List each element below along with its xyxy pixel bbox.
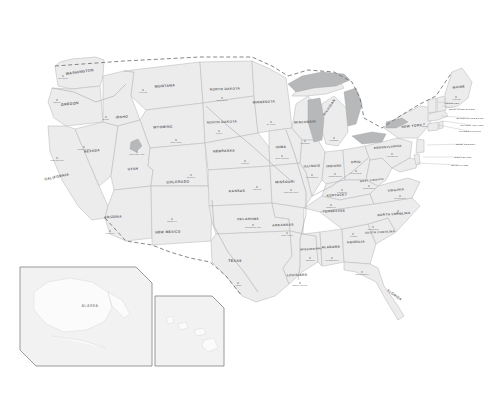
capital-label-austin: Austin: [235, 284, 243, 287]
state-label-rhode-island: RHODE ISLAND: [460, 124, 483, 127]
capital-label-harrisburg: Harrisburg: [386, 155, 398, 158]
state-label-delaware: DELAWARE: [455, 156, 472, 159]
state-label-colorado: COLORADO: [166, 180, 189, 185]
capital-label-little-rock: Little Rock: [281, 234, 293, 237]
capital-label-atlanta: Atlanta: [349, 235, 357, 238]
capital-label-des-moines: Des Moines: [275, 157, 289, 160]
capital-label-baton-rouge: Baton Rouge: [293, 284, 308, 287]
state-label-connecticut: CONNECTICUT: [459, 130, 481, 133]
state-label-oklahoma: OKLAHOMA: [237, 217, 260, 221]
capital-label-jefferson-city: Jefferson City: [283, 191, 299, 194]
state-label-louisiana: LOUISIANA: [287, 273, 308, 278]
capital-label-jackson: Jackson: [305, 259, 315, 262]
state-florida[interactable]: [344, 262, 404, 320]
capital-label-columbia: Columbia: [368, 228, 379, 231]
capital-label-indianapolis: Indianapolis: [328, 175, 342, 178]
state-label-ohio: OHIO: [351, 160, 361, 165]
state-label-kansas: KANSAS: [229, 189, 246, 193]
alaska-inset[interactable]: ALASKA: [20, 267, 152, 366]
state-texas[interactable]: [211, 231, 292, 302]
capital-label-salem: Salem: [53, 101, 60, 104]
capital-label-richmond: Richmond: [394, 197, 406, 200]
state-label-new-jersey: NEW JERSEY: [456, 143, 476, 146]
capital-label-olympia: Olympia: [58, 77, 68, 80]
state-kansas[interactable]: [208, 166, 272, 206]
hawaii-inset[interactable]: [155, 296, 224, 366]
state-label-indiana: INDIANA: [326, 164, 342, 169]
capital-label-charleston: Charleston: [363, 187, 376, 190]
capital-label-salt-lake-city: Salt Lake City: [129, 153, 145, 156]
state-oregon[interactable]: [48, 86, 103, 126]
capital-label-springfield: Springfield: [306, 176, 318, 179]
state-label-maryland: MARYLAND: [451, 164, 468, 167]
capital-label-topeka: Topeka: [253, 188, 262, 191]
capital-label-augusta: Augusta: [451, 98, 461, 101]
us-map-svg: WASHINGTONOREGONIDAHOMONTANAWYOMINGNEVAD…: [0, 0, 500, 408]
capital-label-oklahoma-city: Oklahoma City: [245, 226, 262, 229]
capital-label-boise: Boise: [103, 118, 110, 121]
state-label-missouri: MISSOURI: [275, 180, 295, 185]
state-label-nebraska: NEBRASKA: [213, 149, 235, 154]
state-label-georgia: GEORGIA: [347, 240, 365, 245]
state-label-texas: TEXAS: [228, 259, 242, 263]
capital-label-cheyenne: Cheyenne: [170, 141, 182, 144]
capital-label-albany: Albany: [420, 125, 428, 128]
state-new-jersey[interactable]: [416, 139, 424, 153]
state-label-mississippi: MISSISSIPPI: [300, 247, 322, 252]
capital-label-raleigh: Raleigh: [394, 212, 403, 215]
us-map-container: WASHINGTONOREGONIDAHOMONTANAWYOMINGNEVAD…: [0, 0, 500, 408]
lake-erie: [352, 132, 386, 144]
state-minnesota[interactable]: [252, 61, 292, 133]
capital-label-phoenix: Phoenix: [105, 232, 115, 235]
state-label-alabama: ALABAMA: [322, 245, 341, 250]
state-rhode-island[interactable]: [439, 121, 443, 129]
capital-label-santa-fe: Santa Fe: [167, 220, 178, 223]
state-north-dakota[interactable]: [200, 61, 254, 103]
state-label-massachusetts: MASSACHUSETTS: [456, 117, 483, 120]
hawaii-inset-frame: [155, 296, 224, 366]
capital-label-bismarck: Bismarck: [217, 99, 228, 102]
capital-label-nashville: Nashville: [326, 206, 337, 209]
capital-label-montgomery: Montgomery: [325, 259, 340, 262]
capital-label-lansing: Lansing: [330, 139, 339, 142]
state-label-new-hampshire: NEW HAMPSHIRE: [449, 108, 475, 111]
capital-label-madison: Madison: [300, 142, 310, 145]
capital-label-columbus: Columbus: [350, 172, 362, 175]
state-label-vermont: VERMONT: [445, 102, 460, 105]
state-vermont[interactable]: [428, 98, 436, 113]
state-label-arkansas: ARKANSAS: [272, 223, 294, 228]
capital-label-tallahassee: Tallahassee: [355, 273, 369, 276]
capital-label-frankfort: Frankfort: [337, 191, 347, 194]
capital-label-helena: Helena: [139, 91, 148, 94]
state-new-mexico[interactable]: [151, 186, 212, 245]
capital-label-denver: Denver: [187, 176, 195, 179]
capital-label-st-paul: St. Paul: [267, 123, 276, 126]
state-label-utah: UTAH: [128, 167, 139, 172]
alaska-inset-label: ALASKA: [81, 304, 98, 308]
capital-label-sacramento: Sacramento: [50, 159, 64, 162]
state-label-iowa: IOWA: [276, 145, 287, 149]
capital-label-pierre: Pierre: [216, 132, 223, 135]
capital-label-lincoln: Lincoln: [241, 162, 250, 165]
capital-label-carson-city: Carson City: [77, 148, 91, 151]
